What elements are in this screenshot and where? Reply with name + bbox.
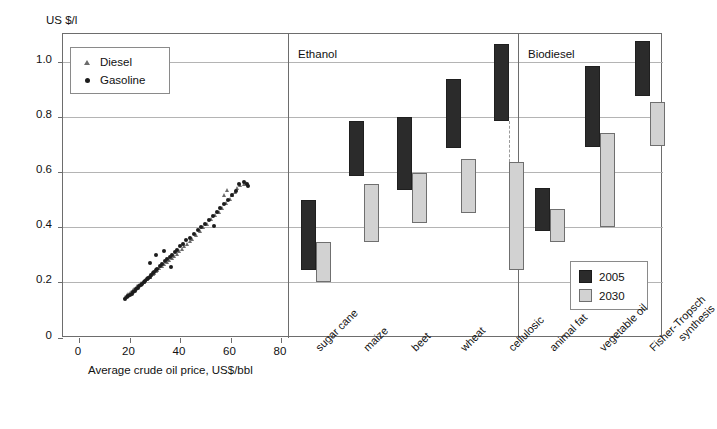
range-bar[interactable] [461,159,476,213]
fuel-legend[interactable]: Diesel Gasoline [70,47,170,94]
x-axis-tick [79,338,80,343]
x-axis-tick-label: 40 [159,345,199,357]
legend-label-gasoline: Gasoline [100,74,145,86]
y-axis-tick-label: 0 [0,329,52,341]
year-legend[interactable]: 2005 2030 [570,261,648,310]
range-bar[interactable] [585,66,600,147]
x-axis-tick-label: 20 [109,345,149,357]
panel-header: Ethanol [298,48,337,60]
y-axis-tick [58,282,63,283]
triangle-marker-icon [80,60,94,65]
legend-item-diesel[interactable]: Diesel [80,53,169,71]
range-bar[interactable] [397,117,412,190]
legend-label-2005: 2005 [599,271,625,283]
range-bar[interactable] [316,242,331,282]
gridline [63,227,663,228]
range-bar[interactable] [349,121,364,176]
range-bar[interactable] [301,200,316,270]
range-bar[interactable] [550,209,565,242]
range-bar[interactable] [650,102,665,146]
legend-item-2030[interactable]: 2030 [579,286,647,305]
x-axis-tick-label: 0 [58,345,98,357]
y-axis-tick [58,172,63,173]
x-axis-tick-label: 80 [260,345,300,357]
scatter-point-gasoline [154,253,158,257]
y-axis-tick [58,117,63,118]
scatter-point-gasoline [234,189,238,193]
scatter-point-gasoline [226,198,230,202]
y-axis-tick [58,227,63,228]
legend-label-diesel: Diesel [100,56,132,68]
x-axis-tick [180,338,181,343]
y-axis-tick-label: 0.4 [0,218,52,230]
y-axis-tick-label: 1.0 [0,53,52,65]
swatch-2030-icon [579,289,592,302]
y-axis-tick-label: 0.6 [0,163,52,175]
y-axis-title: US $/l [46,14,77,26]
x-axis-title: Average crude oil price, US$/bbl [88,364,253,376]
circle-marker-icon [80,78,94,83]
scatter-point-gasoline [215,210,219,214]
scatter-point-gasoline [211,214,215,218]
scatter-point-gasoline [192,232,196,236]
dashed-connector [509,121,510,162]
range-bar[interactable] [494,44,509,121]
y-axis-tick [58,338,63,339]
legend-label-2030: 2030 [599,290,625,302]
range-bar[interactable] [446,79,461,148]
range-bar[interactable] [364,184,379,242]
y-axis-tick-label: 0.2 [0,273,52,285]
x-axis-tick [130,338,131,343]
range-bar[interactable] [509,162,524,270]
scatter-point-gasoline [222,202,226,206]
legend-item-gasoline[interactable]: Gasoline [80,71,169,89]
panel-header: Biodiesel [528,48,575,60]
range-bar[interactable] [535,188,550,231]
range-bar[interactable] [635,41,650,96]
scatter-point-gasoline [181,242,185,246]
legend-item-2005[interactable]: 2005 [579,267,647,286]
y-axis-tick-label: 0.8 [0,108,52,120]
x-axis-tick [231,338,232,343]
scatter-point-gasoline [162,249,166,253]
scatter-point-gasoline [212,224,216,228]
scatter-point-gasoline [169,265,173,269]
x-axis-tick [281,338,282,343]
y-axis-tick [58,62,63,63]
scatter-point-gasoline [188,236,192,240]
range-bar[interactable] [600,133,615,227]
scatter-point-gasoline [207,218,211,222]
x-axis-tick-label: 60 [210,345,250,357]
scatter-point-gasoline [246,184,250,188]
scatter-point-gasoline [218,206,222,210]
scatter-point-diesel [222,193,226,197]
gridline [63,117,663,118]
swatch-2005-icon [579,270,592,283]
range-bar[interactable] [412,173,427,223]
panel-separator [288,34,289,338]
scatter-point-gasoline [148,261,152,265]
scatter-point-diesel [225,188,229,192]
